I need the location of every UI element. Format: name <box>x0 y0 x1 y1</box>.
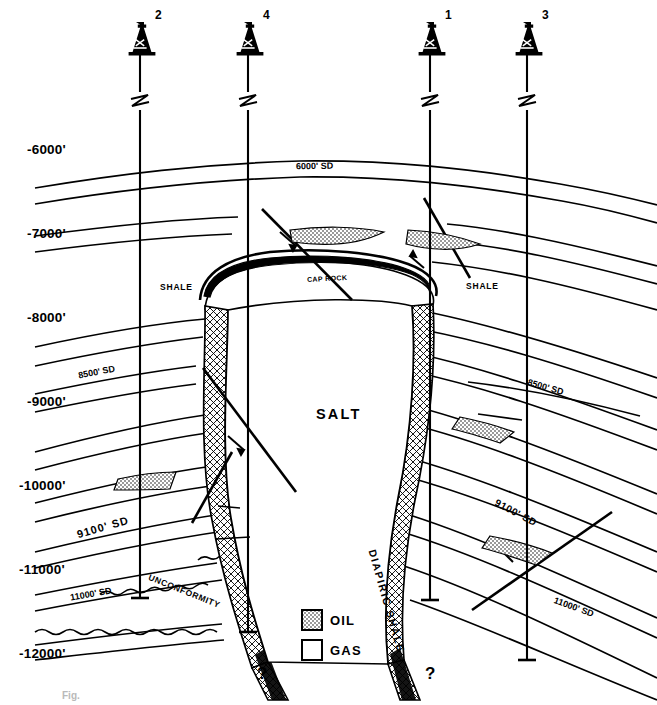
figure-caption: Fig. <box>62 690 80 701</box>
uncertainty-mark-left: ? <box>257 664 267 684</box>
legend-swatch-oil <box>302 610 322 630</box>
shale-label-right: SHALE <box>466 281 499 291</box>
sand-label-6000: 6000' SD <box>296 161 333 172</box>
depth-tick-7000: -7000' <box>27 226 66 241</box>
legend-swatch-gas <box>302 640 322 660</box>
depth-tick-6000: -6000' <box>27 142 66 157</box>
well-label-3: 3 <box>542 8 549 22</box>
depth-tick-11000: -11000' <box>19 562 65 577</box>
well-label-2: 2 <box>155 8 162 22</box>
depth-tick-10000: -10000' <box>19 478 66 493</box>
legend-label-gas: GAS <box>330 643 362 658</box>
uncertainty-mark-right: ? <box>425 664 435 684</box>
salt-label: SALT <box>316 406 362 422</box>
well-label-4: 4 <box>263 8 270 22</box>
depth-tick-8000: -8000' <box>27 310 66 325</box>
depth-tick-12000: -12000' <box>19 646 66 661</box>
depth-tick-9000: -9000' <box>27 394 66 409</box>
shale-label-left: SHALE <box>160 282 193 292</box>
well-label-1: 1 <box>445 8 452 22</box>
legend-label-oil: OIL <box>330 613 355 628</box>
